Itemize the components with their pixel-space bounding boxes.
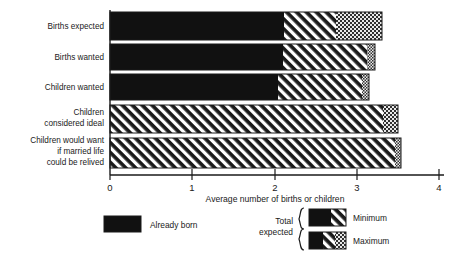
bar-segment-minimum-1	[283, 44, 367, 70]
bar-segment-maximum-3	[383, 105, 398, 133]
legend-swatch-maximum-checker	[335, 232, 346, 249]
bar-segment-minimum-0	[284, 12, 336, 40]
bar-segment-minimum-3	[110, 105, 383, 133]
bar-chart: Births expected Births wanted Children w…	[0, 0, 453, 263]
bar-row-1	[110, 44, 375, 70]
category-label-3-line1: Children	[74, 108, 105, 117]
category-label-0: Births expected	[48, 22, 105, 31]
x-tick-label-0: 0	[107, 182, 112, 193]
bar-segment-minimum-2	[278, 74, 362, 100]
legend-swatch-already-born	[104, 216, 141, 232]
category-label-3-line2: considered ideal	[44, 119, 104, 128]
category-label-4-line2: if married life	[57, 147, 104, 156]
x-tick-label-2: 2	[272, 182, 277, 193]
legend-label-maximum: Maximum	[353, 236, 389, 246]
bar-row-4	[110, 138, 401, 168]
bar-segment-maximum-0	[336, 12, 382, 40]
bar-segment-minimum-4	[110, 138, 395, 168]
bar-segment-already-born-2	[110, 74, 278, 100]
x-axis-title: Average number of births or children	[206, 194, 345, 204]
legend-label-minimum: Minimum	[353, 213, 387, 223]
category-label-2: Children wanted	[45, 83, 105, 92]
bar-row-2	[110, 74, 369, 100]
category-label-4-line1: Children would want	[30, 136, 104, 145]
bar-segment-already-born-0	[110, 12, 284, 40]
legend-swatch-minimum-hatch	[331, 209, 346, 226]
bar-row-3	[110, 105, 398, 133]
legend-label-total-expected-line1: Total	[275, 216, 293, 226]
x-tick-label-3: 3	[354, 182, 359, 193]
bars-group	[110, 12, 401, 168]
category-label-4-line3: could be relived	[47, 158, 105, 167]
bar-row-0	[110, 12, 382, 40]
legend-label-already-born: Already born	[150, 220, 198, 230]
x-tick-label-4: 4	[436, 182, 441, 193]
legend-swatch-minimum-black	[309, 209, 331, 226]
bar-segment-maximum-2	[362, 74, 369, 100]
bar-segment-maximum-4	[395, 138, 401, 168]
category-label-1: Births wanted	[54, 53, 104, 62]
legend-swatch-maximum-black	[309, 232, 323, 249]
legend-label-total-expected-line2: expected	[259, 227, 293, 237]
legend-swatch-maximum-hatch	[323, 232, 335, 249]
chart-svg: Births expected Births wanted Children w…	[0, 0, 453, 263]
bar-segment-already-born-1	[110, 44, 283, 70]
x-tick-label-1: 1	[189, 182, 194, 193]
bar-segment-maximum-1	[367, 44, 375, 70]
